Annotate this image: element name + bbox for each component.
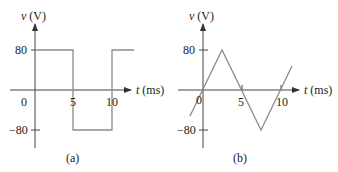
tick-label-80: 80	[183, 43, 195, 57]
tick-label-neg80: −80	[177, 123, 196, 137]
x-axis-label: t (ms)	[136, 83, 164, 97]
caption-b: (b)	[233, 151, 247, 165]
chart-a: v (V) t (ms) 80 −80 0 5 10 (a)	[9, 9, 164, 165]
tick-label-neg80: −80	[9, 123, 28, 137]
y-axis-label: v (V)	[21, 9, 46, 23]
tick-label-5: 5	[238, 95, 244, 109]
tick-label-10: 10	[276, 95, 288, 109]
figure: v (V) t (ms) 80 −80 0 5 10 (a) v (V) t (…	[0, 0, 338, 172]
x-axis-label: t (ms)	[304, 83, 332, 97]
chart-b: v (V) t (ms) 80 −80 0 5 10 (b)	[177, 9, 332, 165]
tick-label-10: 10	[106, 95, 118, 109]
caption-a: (a)	[66, 151, 79, 165]
y-axis-label: v (V)	[189, 9, 214, 23]
tick-label-5: 5	[70, 95, 76, 109]
tick-label-0: 0	[21, 95, 27, 109]
tick-label-0: 0	[196, 93, 202, 107]
tick-label-80: 80	[15, 43, 27, 57]
